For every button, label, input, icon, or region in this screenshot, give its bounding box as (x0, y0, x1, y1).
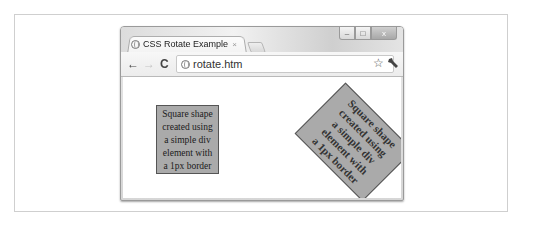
address-text: rotate.htm (193, 58, 243, 70)
forward-button[interactable]: → (143, 57, 155, 71)
square-normal: Square shape created using a simple div … (156, 105, 219, 174)
square-normal-line: a 1px border (157, 160, 218, 173)
address-bar[interactable]: rotate.htm (176, 55, 394, 73)
bookmark-star-icon[interactable]: ☆ (373, 56, 384, 70)
browser-window: CSS Rotate Example × – □ x ← → C rotate.… (120, 26, 404, 201)
tab-active[interactable]: CSS Rotate Example × (131, 36, 243, 52)
window-controls: – □ x (339, 27, 397, 41)
square-rotated: Square shape created using a simple div … (295, 83, 401, 198)
browser-toolbar: ← → C rotate.htm ☆ (121, 52, 403, 77)
wrench-icon[interactable] (386, 56, 400, 70)
page-globe-icon (131, 40, 140, 49)
minimize-button[interactable]: – (339, 27, 355, 40)
square-normal-line: Square shape (157, 108, 218, 121)
square-normal-line: element with (157, 147, 218, 160)
reload-button[interactable]: C (160, 57, 169, 71)
tab-strip: CSS Rotate Example × – □ x (121, 27, 403, 52)
site-globe-icon (181, 60, 190, 69)
maximize-button[interactable]: □ (355, 27, 371, 40)
tab-title: CSS Rotate Example (143, 39, 232, 49)
tab-close-button[interactable]: × (232, 40, 237, 49)
close-window-button[interactable]: x (371, 27, 397, 40)
page-content: Square shape created using a simple div … (123, 77, 401, 198)
square-normal-line: a simple div (157, 134, 218, 147)
back-button[interactable]: ← (127, 57, 139, 71)
square-normal-line: created using (157, 121, 218, 134)
